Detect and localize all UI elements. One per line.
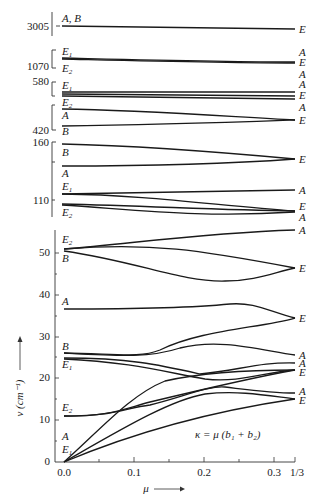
right-label-e-15: E bbox=[298, 394, 306, 406]
right-label-e-22: E bbox=[298, 366, 306, 378]
label-b-26: B bbox=[62, 340, 69, 352]
x-tick-0: 0.0 bbox=[57, 466, 71, 478]
right-label-a-420: A bbox=[298, 101, 306, 113]
label-e2-51: E2 bbox=[61, 233, 73, 247]
y-tick-20: 20 bbox=[39, 371, 51, 383]
svg-text:μ: μ bbox=[142, 482, 149, 494]
y-tick-10: 10 bbox=[39, 413, 51, 425]
lower-left-labels: E2 B A B E1 E2 A E1 bbox=[61, 233, 73, 457]
right-label-e-160: E bbox=[298, 153, 306, 165]
x-axis-label: μ bbox=[142, 482, 185, 494]
x-tick-labels: 0.0 0.1 0.2 0.3 1/3 bbox=[57, 466, 304, 478]
label-a-b: A, B bbox=[61, 12, 81, 24]
label-e1-580: E1 bbox=[61, 79, 72, 93]
upper-left-labels: A, B E1 E2 E1 E2 A B B A E1 E2 bbox=[61, 12, 81, 220]
label-e1-25: E1 bbox=[61, 358, 72, 372]
right-label-e-34: E bbox=[298, 312, 306, 324]
label-a-160: A bbox=[61, 167, 69, 179]
x-tick-1-3: 1/3 bbox=[290, 466, 305, 478]
y-tick-50: 50 bbox=[39, 246, 51, 258]
y-tick-40: 40 bbox=[39, 288, 51, 300]
svg-text:ν (cm⁻¹): ν (cm⁻¹) bbox=[13, 379, 26, 416]
label-b-50: B bbox=[62, 252, 69, 264]
y-label-3005: 3005 bbox=[27, 20, 50, 32]
right-label-e-580: E bbox=[298, 89, 306, 101]
upper-y-labels: 3005 1070 580 420 160 110 bbox=[27, 20, 50, 206]
phonon-dispersion-chart: 3005 1070 580 420 160 110 A, B E1 E2 E1 … bbox=[0, 0, 321, 500]
label-e1-110: E1 bbox=[61, 180, 72, 194]
y-label-110: 110 bbox=[33, 194, 50, 206]
y-tick-30: 30 bbox=[39, 330, 51, 342]
y-tick-0: 0 bbox=[45, 455, 51, 467]
label-b-420: B bbox=[62, 125, 69, 137]
kappa-annotation: κ = μ (b₁ + b₂) bbox=[195, 428, 261, 441]
label-e2-580: E2 bbox=[61, 96, 73, 110]
label-e2-11: E2 bbox=[61, 401, 73, 415]
upper-right-labels: E A E A A E A E E A E A bbox=[298, 23, 306, 223]
upper-axis-brackets bbox=[52, 12, 60, 217]
y-axis-label: ν (cm⁻¹) bbox=[13, 336, 26, 417]
y-label-420: 420 bbox=[33, 124, 50, 136]
label-a-0: A bbox=[61, 430, 69, 442]
label-b-160: B bbox=[62, 146, 69, 158]
right-label-e-420: E bbox=[298, 114, 306, 126]
right-label-a-110a: A bbox=[298, 184, 306, 196]
right-label-a-55: A bbox=[298, 224, 306, 236]
label-a-420: A bbox=[61, 109, 69, 121]
y-label-1070: 1070 bbox=[27, 60, 50, 72]
label-e1-0: E1 bbox=[61, 443, 72, 457]
x-tick-0-2: 0.2 bbox=[197, 466, 211, 478]
right-label-e-3005: E bbox=[298, 23, 306, 35]
right-label-a-110b: A bbox=[298, 211, 306, 223]
upper-curves bbox=[62, 26, 295, 214]
y-arrow-icon bbox=[18, 336, 23, 342]
label-e2-1070: E2 bbox=[61, 62, 73, 76]
label-e1-1070: E1 bbox=[61, 45, 72, 59]
lower-right-labels: A E E A A E A E bbox=[298, 224, 306, 406]
lower-y-labels: 50 40 30 20 10 0 bbox=[39, 246, 51, 467]
y-label-580: 580 bbox=[33, 75, 50, 87]
x-tick-0-3: 0.3 bbox=[267, 466, 281, 478]
right-label-e-46: E bbox=[298, 262, 306, 274]
x-arrow-icon bbox=[180, 487, 185, 492]
label-e2-110: E2 bbox=[61, 206, 73, 220]
right-label-e-1070: E bbox=[298, 56, 306, 68]
y-label-160: 160 bbox=[33, 136, 50, 148]
x-tick-0-1: 0.1 bbox=[127, 466, 141, 478]
label-a-36: A bbox=[61, 295, 69, 307]
